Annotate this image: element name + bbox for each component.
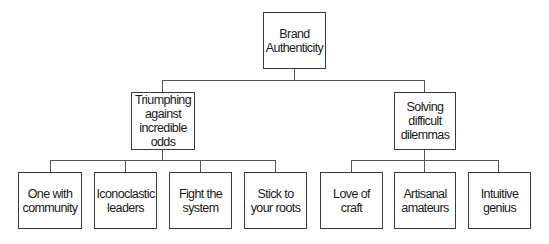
leaf-node-label: Love of craft <box>323 187 380 215</box>
leaf-node-label: Fight the system <box>172 187 229 215</box>
connector-leaf-1 <box>125 160 126 172</box>
branch-node-label: Triumphing against incredible odds <box>134 93 192 149</box>
connector-leaf-5 <box>424 160 425 172</box>
leaf-node-label: One with community <box>21 187 79 215</box>
connector-root-down <box>294 68 295 80</box>
connector-branch-0-bar <box>50 160 276 161</box>
leaf-node-label: Artisanal amateurs <box>397 187 453 215</box>
leaf-node-label: Intuitive genius <box>471 187 528 215</box>
connector-leaf-2 <box>200 160 201 172</box>
leaf-node-one-with-community: One with community <box>18 172 82 229</box>
connector-leaf-0 <box>50 160 51 172</box>
root-node: Brand Authenticity <box>263 12 326 69</box>
leaf-node-iconoclastic-leaders: Iconoclastic leaders <box>94 172 157 229</box>
connector-branch-0-down <box>162 149 163 160</box>
connector-level1-bar <box>162 80 425 81</box>
leaf-node-intuitive-genius: Intuitive genius <box>468 172 531 229</box>
leaf-node-label: Stick to your roots <box>247 187 304 215</box>
leaf-node-stick-to-your-roots: Stick to your roots <box>244 172 307 229</box>
leaf-node-love-of-craft: Love of craft <box>320 172 383 229</box>
root-node-label: Brand Authenticity <box>266 27 323 55</box>
leaf-node-fight-the-system: Fight the system <box>169 172 232 229</box>
connector-leaf-4 <box>351 160 352 172</box>
connector-leaf-3 <box>275 160 276 172</box>
branch-node-solving: Solving difficult dilemmas <box>394 92 456 150</box>
branch-node-label: Solving difficult dilemmas <box>397 100 453 142</box>
branch-node-triumphing: Triumphing against incredible odds <box>131 92 195 150</box>
connector-to-branch-1 <box>424 80 425 92</box>
connector-leaf-6 <box>498 160 499 172</box>
connector-branch-1-down <box>424 149 425 160</box>
connector-to-branch-0 <box>162 80 163 92</box>
leaf-node-label: Iconoclastic leaders <box>96 187 154 215</box>
leaf-node-artisanal-amateurs: Artisanal amateurs <box>394 172 456 229</box>
